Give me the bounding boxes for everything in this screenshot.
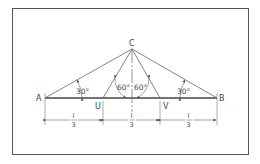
truss-diagram: A B C U V 30° 60° 60° 30° l 3 l 3 l 3	[0, 0, 260, 164]
svg-text:3: 3	[72, 121, 76, 129]
svg-text:l: l	[131, 112, 133, 120]
svg-text:l: l	[188, 112, 190, 120]
angle-label-right: 30°	[177, 87, 191, 96]
angle-label-center-left: 60°	[117, 83, 131, 92]
svg-text:3: 3	[130, 121, 134, 129]
svg-text:3: 3	[187, 121, 191, 129]
dimension-label-1: l 3	[70, 112, 78, 129]
dimension-label-3: l 3	[185, 112, 193, 129]
angle-label-center-right: 60°	[134, 83, 148, 92]
angle-label-left: 30°	[76, 87, 90, 96]
point-label-c: C	[129, 39, 135, 48]
point-label-u: U	[95, 102, 101, 111]
point-label-b: B	[219, 94, 225, 103]
point-label-a: A	[36, 94, 42, 103]
point-label-v: V	[163, 102, 169, 111]
svg-text:l: l	[73, 112, 75, 120]
dimension-label-2: l 3	[128, 112, 136, 129]
